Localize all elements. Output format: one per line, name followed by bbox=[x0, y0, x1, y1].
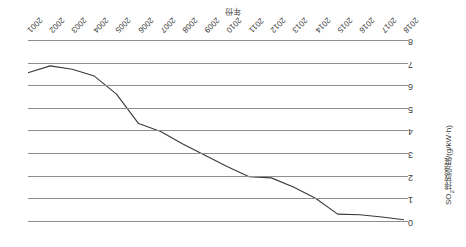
x-axis-tick-label: 2018 bbox=[401, 16, 419, 34]
y-axis-tick-label: 5 bbox=[408, 105, 430, 114]
y-axis-tick-label: 3 bbox=[408, 150, 430, 159]
gridline bbox=[28, 85, 404, 86]
y-axis-tick-label: 0 bbox=[408, 218, 430, 227]
line-chart: SO2排放强度/(g/kW·h) 012345678 2018201720162… bbox=[0, 0, 466, 247]
data-line-series bbox=[28, 41, 404, 222]
x-axis-tick-label: 2015 bbox=[335, 16, 353, 34]
x-axis-tick-label: 2001 bbox=[25, 16, 43, 34]
y-axis-tick-label: 4 bbox=[408, 128, 430, 137]
x-axis-tick-label: 2017 bbox=[379, 16, 397, 34]
data-line bbox=[28, 66, 404, 220]
y-axis-title: SO2排放强度/(g/kW·h) bbox=[444, 55, 458, 205]
x-axis-tick-label: 2011 bbox=[247, 16, 265, 34]
gridline bbox=[28, 198, 404, 199]
x-axis-title: 年份 bbox=[0, 7, 466, 15]
x-axis-tick-label: 2009 bbox=[202, 16, 220, 34]
gridline bbox=[28, 221, 404, 222]
x-axis-tick-label: 2007 bbox=[158, 16, 176, 34]
y-axis-tick-label: 8 bbox=[408, 37, 430, 46]
x-axis-tick-label: 2012 bbox=[269, 16, 287, 34]
x-axis-tick-label: 2014 bbox=[313, 16, 331, 34]
gridline bbox=[28, 153, 404, 154]
gridline bbox=[28, 40, 404, 41]
gridline bbox=[28, 108, 404, 109]
x-axis-tick-label: 2004 bbox=[92, 16, 110, 34]
x-axis-tick-label: 2010 bbox=[224, 16, 242, 34]
x-axis-tick-label: 2008 bbox=[180, 16, 198, 34]
x-axis-tick-label: 2006 bbox=[136, 16, 154, 34]
rotated-figure-wrapper: SO2排放强度/(g/kW·h) 012345678 2018201720162… bbox=[0, 0, 466, 247]
y-axis-title-subscript: 2 bbox=[449, 190, 455, 193]
y-axis-tick-label: 6 bbox=[408, 82, 430, 91]
x-axis-tick-label: 2016 bbox=[357, 16, 375, 34]
y-axis-tick-label: 2 bbox=[408, 173, 430, 182]
x-axis-tick-label: 2002 bbox=[47, 16, 65, 34]
x-axis-tick-label: 2003 bbox=[70, 16, 88, 34]
y-axis-title-prefix: SO bbox=[444, 193, 453, 205]
gridline bbox=[28, 176, 404, 177]
y-axis-tick-label: 1 bbox=[408, 195, 430, 204]
gridline bbox=[28, 63, 404, 64]
y-axis-tick-label: 7 bbox=[408, 60, 430, 69]
y-axis-title-suffix: 排放强度/(g/kW·h) bbox=[444, 125, 453, 190]
gridline bbox=[28, 131, 404, 132]
x-axis-tick-label: 2005 bbox=[114, 16, 132, 34]
x-axis-tick-label: 2013 bbox=[291, 16, 309, 34]
plot-area: 012345678 bbox=[28, 41, 404, 222]
